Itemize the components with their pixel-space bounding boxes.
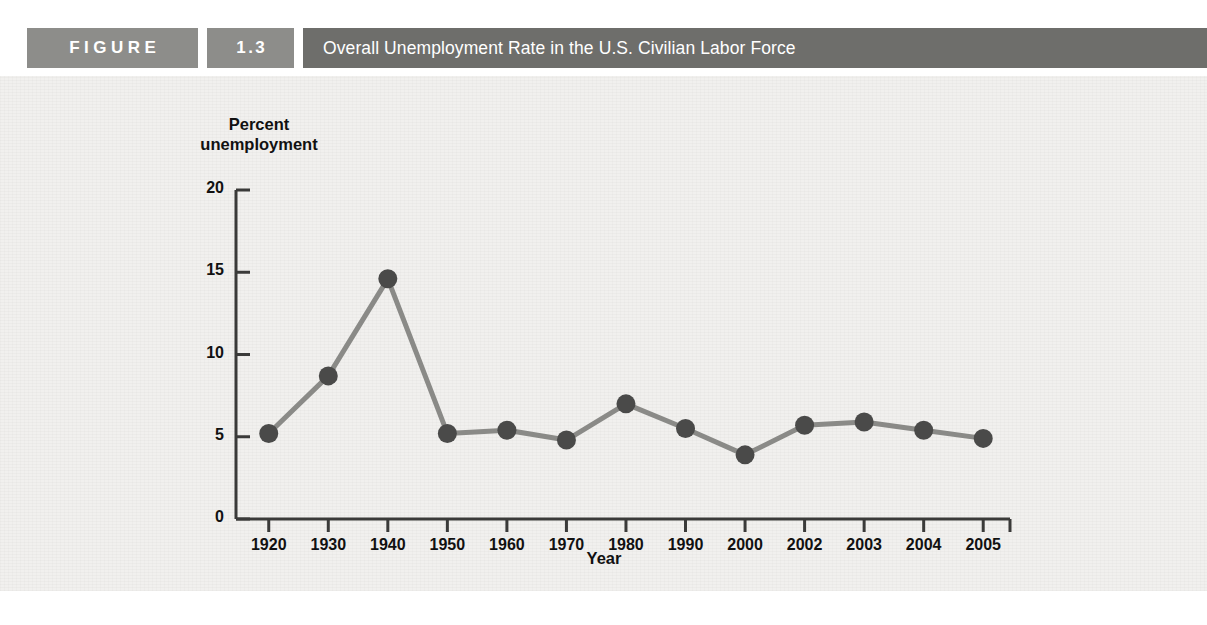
data-point-1940 (378, 269, 397, 288)
chart-area: Percent unemployment 05101520 1920193019… (0, 76, 1207, 591)
x-tick-label-2003: 2003 (833, 536, 895, 554)
figure-container: FIGURE 1.3 Overall Unemployment Rate in … (0, 0, 1207, 625)
figure-number-box: 1.3 (207, 28, 294, 68)
figure-header: FIGURE 1.3 Overall Unemployment Rate in … (0, 0, 1207, 76)
data-point-2003 (855, 412, 874, 431)
figure-title-bar: Overall Unemployment Rate in the U.S. Ci… (303, 28, 1207, 68)
x-tick-label-2000: 2000 (714, 536, 776, 554)
data-point-2005 (974, 429, 993, 448)
x-tick-label-1940: 1940 (357, 536, 419, 554)
y-tick-label-0: 0 (180, 508, 224, 526)
figure-word-label: FIGURE (65, 38, 161, 58)
data-point-1990 (676, 419, 695, 438)
data-series-unemployment (259, 269, 992, 464)
x-tick-label-2005: 2005 (952, 536, 1014, 554)
x-tick-label-2002: 2002 (774, 536, 836, 554)
y-tick-label-5: 5 (180, 426, 224, 444)
x-tick-label-1920: 1920 (238, 536, 300, 554)
y-tick-label-15: 15 (180, 261, 224, 279)
data-point-1930 (319, 366, 338, 385)
figure-number-label: 1.3 (234, 38, 268, 58)
data-point-2000 (736, 445, 755, 464)
data-point-1960 (497, 421, 516, 440)
y-tick-label-20: 20 (180, 179, 224, 197)
figure-title-label: Overall Unemployment Rate in the U.S. Ci… (323, 38, 796, 59)
data-point-1970 (557, 431, 576, 450)
y-tick-label-10: 10 (180, 344, 224, 362)
x-tick-label-1930: 1930 (297, 536, 359, 554)
data-point-2004 (914, 421, 933, 440)
x-tick-label-2004: 2004 (893, 536, 955, 554)
data-point-2002 (795, 416, 814, 435)
series-line (269, 279, 983, 455)
x-tick-label-1950: 1950 (416, 536, 478, 554)
x-axis-title: Year (504, 549, 704, 568)
data-point-1950 (438, 424, 457, 443)
data-point-1980 (616, 394, 635, 413)
data-point-1920 (259, 424, 278, 443)
chart-axes (236, 190, 1010, 532)
figure-word-box: FIGURE (27, 28, 198, 68)
